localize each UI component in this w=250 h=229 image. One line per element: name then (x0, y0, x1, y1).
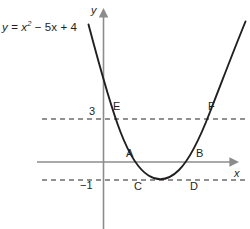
graph-figure: y = x2 − 5x + 4 y x 3 −1 E F A B C D (0, 0, 250, 229)
point-label-C: C (134, 181, 142, 192)
equation-equals: = (11, 21, 18, 33)
tick-label-3: 3 (89, 106, 95, 117)
y-axis-label: y (91, 5, 97, 16)
x-axis-label: x (234, 168, 240, 179)
point-label-B: B (196, 148, 203, 159)
equation-rest: − 5x + 4 (35, 21, 77, 33)
point-label-D: D (190, 181, 198, 192)
equation-exponent: 2 (27, 19, 31, 28)
graph-canvas (0, 0, 250, 229)
point-label-F: F (208, 101, 215, 112)
point-label-E: E (113, 101, 120, 112)
equation-lhs: y (2, 21, 8, 33)
equation-label: y = x2 − 5x + 4 (2, 22, 77, 34)
tick-label-neg1: −1 (80, 180, 93, 191)
point-label-A: A (126, 148, 133, 159)
